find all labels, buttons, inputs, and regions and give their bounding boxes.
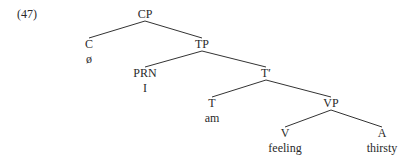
leaf-word: I bbox=[143, 82, 147, 94]
tree-edge bbox=[145, 51, 202, 67]
tree-edge bbox=[266, 80, 331, 97]
node-prn: PRN bbox=[133, 67, 156, 79]
tree-edge bbox=[89, 21, 145, 38]
leaf-word: ø bbox=[86, 53, 92, 65]
leaf-word: am bbox=[205, 112, 220, 124]
tree-edge bbox=[145, 21, 202, 38]
node-c: C bbox=[85, 38, 93, 50]
node-tbar: T′ bbox=[261, 67, 271, 79]
node-v: V bbox=[281, 127, 290, 139]
node-a: A bbox=[378, 127, 387, 139]
node-cp: CP bbox=[138, 8, 153, 20]
node-tp: TP bbox=[195, 38, 209, 50]
tree-edge bbox=[285, 110, 331, 127]
tree-edge bbox=[202, 51, 266, 67]
tree-edges bbox=[0, 0, 410, 160]
leaf-word: thirsty bbox=[367, 142, 398, 154]
tree-edge bbox=[212, 80, 266, 97]
node-vp: VP bbox=[323, 97, 338, 109]
example-number: (47) bbox=[17, 8, 37, 20]
tree-edge bbox=[331, 110, 382, 127]
leaf-word: feeling bbox=[268, 142, 301, 154]
node-t: T bbox=[208, 97, 215, 109]
